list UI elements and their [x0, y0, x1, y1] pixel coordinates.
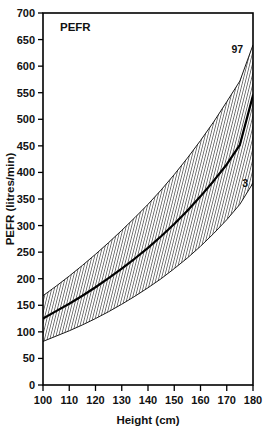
x-tick-label: 100: [34, 394, 52, 406]
y-tick-label: 50: [23, 352, 35, 364]
x-axis-ticks: [43, 385, 253, 391]
centile-band: [43, 45, 253, 342]
centile-label-97: 97: [231, 43, 243, 55]
x-axis-tick-labels: 100110120130140150160170180: [34, 394, 262, 406]
y-tick-label: 150: [17, 299, 35, 311]
y-tick-label: 600: [17, 60, 35, 72]
y-tick-label: 250: [17, 246, 35, 258]
y-tick-label: 0: [29, 379, 35, 391]
x-tick-label: 110: [60, 394, 78, 406]
y-axis-tick-labels: 0501001502002503003504004505005506006507…: [17, 7, 35, 391]
y-tick-label: 650: [17, 34, 35, 46]
x-tick-label: 140: [139, 394, 157, 406]
y-tick-label: 100: [17, 326, 35, 338]
y-tick-label: 500: [17, 113, 35, 125]
x-axis-title: Height (cm): [116, 414, 179, 426]
pefr-centile-chart-figure: 0501001502002503003504004505005506006507…: [0, 0, 269, 431]
chart-canvas: 0501001502002503003504004505005506006507…: [0, 0, 269, 431]
y-tick-label: 350: [17, 193, 35, 205]
y-tick-label: 300: [17, 220, 35, 232]
x-tick-label: 130: [113, 394, 131, 406]
x-tick-label: 170: [218, 394, 236, 406]
x-tick-label: 120: [86, 394, 104, 406]
centile-label-3: 3: [242, 177, 248, 189]
y-tick-label: 450: [17, 140, 35, 152]
y-axis-title: PEFR (litres/min): [4, 153, 16, 246]
x-tick-label: 160: [191, 394, 209, 406]
y-tick-label: 550: [17, 87, 35, 99]
x-tick-label: 150: [165, 394, 183, 406]
x-tick-label: 180: [244, 394, 262, 406]
y-tick-label: 400: [17, 166, 35, 178]
y-tick-label: 200: [17, 273, 35, 285]
panel-label: PEFR: [60, 21, 91, 33]
y-tick-label: 700: [17, 7, 35, 19]
